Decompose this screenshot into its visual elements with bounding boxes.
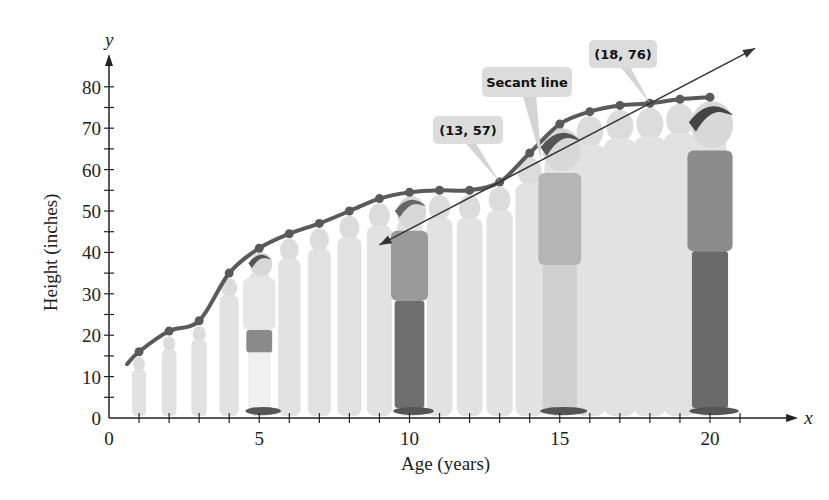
data-point [465, 186, 474, 195]
y-tick-label: 60 [82, 160, 101, 181]
height-vs-age-chart: 05101520 01020304050607080 (13, 57)Secan… [0, 0, 829, 500]
data-point [255, 244, 264, 253]
person-silhouette [604, 110, 636, 416]
data-point [675, 95, 684, 104]
data-point [525, 149, 534, 158]
y-tick-label: 50 [82, 201, 101, 222]
data-point [285, 229, 294, 238]
y-tick-label: 20 [82, 325, 101, 346]
person-silhouette [487, 187, 513, 416]
callout-label: (18, 76) [594, 47, 652, 62]
callout: (18, 76) [589, 40, 657, 103]
data-point [315, 219, 324, 228]
x-tick-label: 20 [701, 428, 720, 449]
person-silhouette [427, 195, 453, 416]
person-silhouette [132, 357, 146, 416]
person-silhouette [634, 108, 666, 416]
person-silhouette [220, 278, 239, 416]
person-silhouette [457, 195, 483, 416]
callout-pointer [620, 66, 650, 103]
person-silhouette [308, 228, 331, 416]
callout-label: Secant line [486, 75, 568, 90]
callout-pointer [465, 142, 500, 182]
data-point [165, 327, 174, 336]
x-axis-title: Age (years) [401, 453, 490, 475]
data-point [135, 347, 144, 356]
silhouettes [132, 102, 726, 416]
x-axis: 05101520 [104, 413, 798, 449]
person-silhouette [191, 326, 207, 416]
y-tick-label: 30 [82, 284, 101, 305]
data-point [706, 93, 715, 102]
data-point [375, 194, 384, 203]
data-point [225, 269, 234, 278]
x-tick-label: 0 [104, 428, 114, 449]
person-silhouette [278, 239, 300, 416]
y-axis: 01020304050607080 [82, 54, 114, 429]
y-axis-var: y [103, 29, 114, 50]
y-tick-label: 80 [82, 77, 101, 98]
data-point [195, 316, 204, 325]
y-axis-arrow-icon [105, 54, 113, 66]
y-tick-label: 40 [82, 242, 101, 263]
x-axis-var: x [803, 407, 813, 428]
data-point [345, 207, 354, 216]
y-tick-label: 10 [82, 367, 101, 388]
person-silhouette [337, 216, 361, 416]
x-axis-arrow-icon [786, 414, 798, 422]
person-silhouette [367, 203, 392, 416]
callout: (13, 57) [433, 116, 503, 182]
y-tick-label: 0 [92, 408, 102, 429]
y-tick-label: 70 [82, 118, 101, 139]
x-tick-label: 15 [550, 428, 569, 449]
person-silhouette [162, 336, 177, 416]
secant-arrow-right-icon [742, 48, 755, 58]
person-silhouette [664, 104, 697, 416]
x-tick-label: 5 [255, 428, 265, 449]
data-point [435, 186, 444, 195]
data-point [555, 120, 564, 129]
data-point [585, 107, 594, 116]
data-point [405, 188, 414, 197]
x-tick-label: 10 [400, 428, 419, 449]
y-axis-title: Height (inches) [40, 194, 62, 312]
callout-label: (13, 57) [439, 123, 497, 138]
data-point [615, 101, 624, 110]
person-silhouette [574, 116, 606, 416]
